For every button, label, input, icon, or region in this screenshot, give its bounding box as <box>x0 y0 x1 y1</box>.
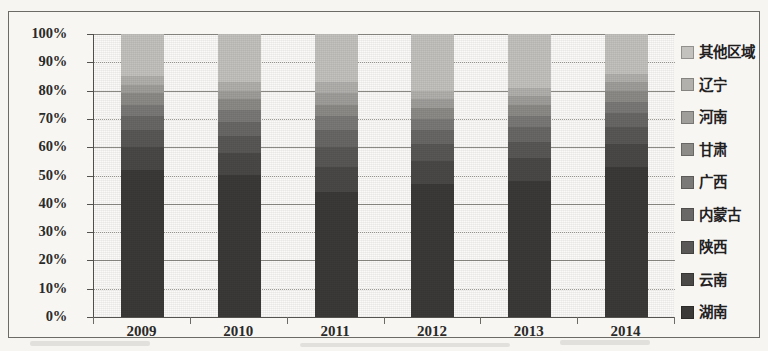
legend-swatch-icon <box>681 176 694 189</box>
bar-segment-云南 <box>315 167 358 192</box>
bar-segment-内蒙古 <box>508 127 551 141</box>
x-tick-mark <box>577 317 578 324</box>
bar-segment-其他区域 <box>218 34 261 82</box>
bar-segment-陕西 <box>411 144 454 161</box>
y-tick-mark <box>87 176 94 177</box>
y-tick-mark <box>87 232 94 233</box>
legend-swatch-icon <box>681 273 694 286</box>
bar-segment-广西 <box>121 105 164 116</box>
bar-segment-内蒙古 <box>315 130 358 147</box>
x-axis-tick-label: 2009 <box>96 324 186 339</box>
y-tick-mark <box>87 119 94 120</box>
bar-segment-河南 <box>605 82 648 90</box>
bar-segment-辽宁 <box>411 91 454 99</box>
bar-segment-甘肃 <box>218 99 261 110</box>
bar-segment-辽宁 <box>121 76 164 84</box>
bar-segment-辽宁 <box>218 82 261 90</box>
legend-label: 湖南 <box>699 305 727 320</box>
y-axis-tick-label: 90% <box>5 54 67 69</box>
bar-segment-云南 <box>411 161 454 184</box>
y-axis-tick-label: 50% <box>5 168 67 183</box>
bar-segment-其他区域 <box>411 34 454 91</box>
bar-segment-云南 <box>605 144 648 167</box>
legend-label: 内蒙古 <box>699 208 741 223</box>
legend-swatch-icon <box>681 208 694 221</box>
legend-item-辽宁[interactable]: 辽宁 <box>681 69 768 102</box>
bar-segment-陕西 <box>605 127 648 144</box>
bar-segment-内蒙古 <box>605 113 648 127</box>
bar-segment-河南 <box>121 85 164 93</box>
legend-item-湖南[interactable]: 湖南 <box>681 296 768 329</box>
bar-2014 <box>605 34 648 317</box>
bar-segment-河南 <box>315 93 358 104</box>
bar-segment-其他区域 <box>508 34 551 88</box>
chart-frame: 100%90%80%70%60%50%40%30%20%10%0% 200920… <box>8 11 760 338</box>
bar-segment-湖南 <box>411 184 454 317</box>
bar-segment-湖南 <box>315 192 358 317</box>
y-axis-tick-label: 100% <box>5 26 67 41</box>
y-axis-tick-label: 40% <box>5 196 67 211</box>
legend-label: 河南 <box>699 110 727 125</box>
legend-label: 广西 <box>699 175 727 190</box>
bar-segment-甘肃 <box>315 105 358 116</box>
bar-segment-辽宁 <box>315 82 358 93</box>
gridline-20% <box>94 260 675 261</box>
y-axis-tick-label: 20% <box>5 252 67 267</box>
x-tick-mark <box>190 317 191 324</box>
legend-label: 陕西 <box>699 240 727 255</box>
legend-label: 云南 <box>699 273 727 288</box>
legend-item-河南[interactable]: 河南 <box>681 101 768 134</box>
y-tick-mark <box>87 204 94 205</box>
legend-item-陕西[interactable]: 陕西 <box>681 231 768 264</box>
y-tick-mark <box>87 260 94 261</box>
legend-item-内蒙古[interactable]: 内蒙古 <box>681 199 768 232</box>
scan-smudge <box>560 340 650 345</box>
y-tick-mark <box>87 289 94 290</box>
bar-segment-辽宁 <box>605 74 648 82</box>
bar-segment-河南 <box>411 99 454 107</box>
gridline-30% <box>94 232 675 233</box>
legend-swatch-icon <box>681 306 694 319</box>
bar-segment-广西 <box>218 110 261 121</box>
x-tick-mark <box>480 317 481 324</box>
legend-swatch-icon <box>681 143 694 156</box>
bar-segment-河南 <box>218 91 261 99</box>
bar-2011 <box>315 34 358 317</box>
bar-segment-广西 <box>605 102 648 113</box>
legend-item-广西[interactable]: 广西 <box>681 166 768 199</box>
bar-segment-湖南 <box>218 175 261 317</box>
gridline-10% <box>94 289 675 290</box>
x-tick-mark <box>93 317 94 324</box>
bar-segment-云南 <box>121 147 164 170</box>
legend-swatch-icon <box>681 78 694 91</box>
x-axis-tick-label: 2014 <box>581 324 671 339</box>
chart-legend: 其他区域辽宁河南甘肃广西内蒙古陕西云南湖南 <box>681 36 768 329</box>
bar-segment-云南 <box>508 158 551 181</box>
bar-2009 <box>121 34 164 317</box>
y-axis-tick-label: 70% <box>5 111 67 126</box>
bar-segment-辽宁 <box>508 88 551 96</box>
legend-item-云南[interactable]: 云南 <box>681 264 768 297</box>
gridline-40% <box>94 204 675 205</box>
legend-item-甘肃[interactable]: 甘肃 <box>681 134 768 167</box>
bar-segment-陕西 <box>218 136 261 153</box>
bar-segment-甘肃 <box>605 91 648 102</box>
bar-2010 <box>218 34 261 317</box>
y-tick-mark <box>87 62 94 63</box>
x-tick-mark <box>674 317 675 324</box>
x-tick-mark <box>384 317 385 324</box>
gridline-50% <box>94 176 675 177</box>
y-axis-tick-label: 30% <box>5 224 67 239</box>
scan-smudge <box>30 341 150 346</box>
gridline-60% <box>94 147 675 148</box>
bar-segment-内蒙古 <box>218 122 261 136</box>
gridline-80% <box>94 91 675 92</box>
bar-segment-广西 <box>508 116 551 127</box>
y-tick-mark <box>87 34 94 35</box>
bar-segment-内蒙古 <box>411 130 454 144</box>
bar-segment-广西 <box>411 119 454 130</box>
y-tick-mark <box>87 91 94 92</box>
legend-item-其他区域[interactable]: 其他区域 <box>681 36 768 69</box>
bar-segment-内蒙古 <box>121 116 164 130</box>
y-axis-tick-label: 0% <box>5 309 67 324</box>
